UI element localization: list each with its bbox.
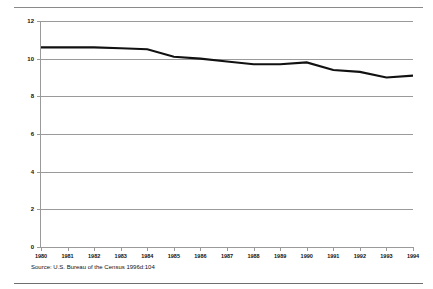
y-tick-label-2: 2: [31, 206, 34, 212]
y-tick-label-8: 8: [31, 93, 34, 99]
figure-top-rule: [14, 7, 423, 8]
x-tick-mark-1989: [280, 247, 281, 251]
series-polyline: [41, 47, 413, 77]
series-line: [41, 21, 413, 247]
plot-area: 1980198119821983198419851986198719881989…: [41, 21, 413, 247]
x-tick-mark-1986: [200, 247, 201, 251]
y-tick-label-6: 6: [31, 131, 34, 137]
x-tick-mark-1993: [386, 247, 387, 251]
x-tick-mark-1992: [360, 247, 361, 251]
y-tick-label-4: 4: [31, 169, 34, 175]
x-tick-mark-1991: [333, 247, 334, 251]
x-tick-mark-1980: [41, 247, 42, 251]
x-tick-mark-1982: [94, 247, 95, 251]
x-tick-mark-1984: [147, 247, 148, 251]
y-axis-labels: 024681012: [0, 21, 37, 247]
x-tick-mark-1981: [68, 247, 69, 251]
x-tick-label-1994: 1994: [393, 253, 433, 259]
figure-bottom-rule: [14, 283, 423, 284]
x-tick-mark-1987: [227, 247, 228, 251]
y-tick-label-12: 12: [27, 18, 34, 24]
source-note: Source: U.S. Bureau of the Census 1996d:…: [31, 264, 155, 270]
y-tick-label-0: 0: [31, 244, 34, 250]
x-tick-mark-1994: [413, 247, 414, 251]
x-tick-mark-1990: [307, 247, 308, 251]
y-tick-label-10: 10: [27, 56, 34, 62]
x-tick-mark-1985: [174, 247, 175, 251]
x-tick-mark-1983: [121, 247, 122, 251]
chart-figure: 024681012 198019811982198319841985198619…: [0, 0, 433, 289]
x-tick-mark-1988: [254, 247, 255, 251]
